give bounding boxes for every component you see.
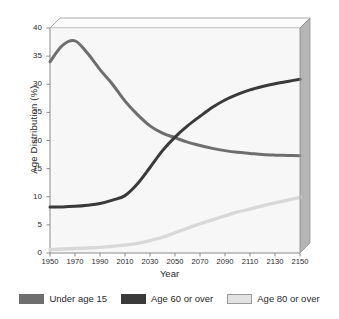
legend-label-under-15: Under age 15 [49,293,107,304]
y-tick-label: 5 [20,221,42,229]
legend-swatch-under-15 [19,294,44,304]
y-tick-label: 30 [20,80,42,88]
x-tick-label: 2150 [280,258,320,266]
legend-swatch-age-60-over [121,294,146,304]
y-tick-label: 10 [20,193,42,201]
plot-background [50,28,300,253]
panel-side [300,18,310,253]
legend-swatch-age-80-over [227,294,252,304]
chart-container: Age Distribution (%) Year Under age 15 A… [0,0,339,319]
legend: Under age 15 Age 60 or over Age 80 or ov… [0,293,339,304]
legend-label-age-60-over: Age 60 or over [151,293,213,304]
y-tick-label: 0 [20,249,42,257]
x-axis-title: Year [0,268,339,279]
y-tick-label: 25 [20,108,42,116]
legend-item-under-15[interactable]: Under age 15 [19,293,107,304]
legend-item-age-60-over[interactable]: Age 60 or over [121,293,213,304]
y-tick-label: 35 [20,52,42,60]
y-tick-label: 40 [20,24,42,32]
legend-item-age-80-over[interactable]: Age 80 or over [227,293,319,304]
legend-label-age-80-over: Age 80 or over [257,293,319,304]
y-tick-label: 15 [20,165,42,173]
y-tick-label: 20 [20,137,42,145]
panel-top [50,18,310,28]
